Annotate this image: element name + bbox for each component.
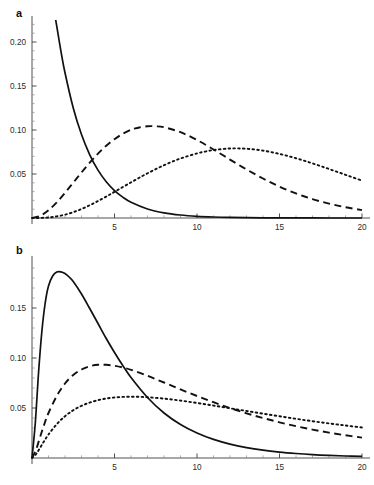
- curve-dashed: [32, 365, 362, 458]
- curve-dotted: [32, 148, 362, 218]
- y-tick-label: 0.15: [10, 304, 26, 313]
- y-tick-label: 0.15: [10, 82, 26, 91]
- panel-b-plot: 51015200.050.100.15: [0, 240, 374, 485]
- x-tick-label: 5: [112, 463, 117, 472]
- y-tick-label: 0.10: [10, 126, 26, 135]
- figure-two-panel-density-plots: a 51015200.050.100.150.20 b 51015200.050…: [0, 0, 374, 485]
- x-tick-label: 15: [275, 463, 285, 472]
- curves-group: [32, 0, 362, 218]
- curve-dashed: [32, 126, 362, 218]
- panel-a: a 51015200.050.100.150.20: [0, 0, 374, 240]
- curve-solid: [32, 0, 362, 218]
- y-tick-label: 0.20: [10, 38, 26, 47]
- panel-b: b 51015200.050.100.15: [0, 240, 374, 485]
- curve-dotted: [32, 397, 362, 458]
- x-tick-label: 20: [357, 223, 367, 232]
- y-tick-label: 0.05: [10, 404, 26, 413]
- x-tick-label: 15: [275, 223, 285, 232]
- x-tick-label: 20: [357, 463, 367, 472]
- panel-a-label: a: [16, 7, 22, 19]
- y-tick-label: 0.10: [10, 354, 26, 363]
- panel-a-plot: 51015200.050.100.150.20: [0, 0, 374, 240]
- x-tick-label: 10: [192, 223, 202, 232]
- x-tick-label: 5: [112, 223, 117, 232]
- curves-group: [32, 272, 362, 458]
- panel-b-label: b: [16, 244, 23, 256]
- x-tick-label: 10: [192, 463, 202, 472]
- y-tick-label: 0.05: [10, 170, 26, 179]
